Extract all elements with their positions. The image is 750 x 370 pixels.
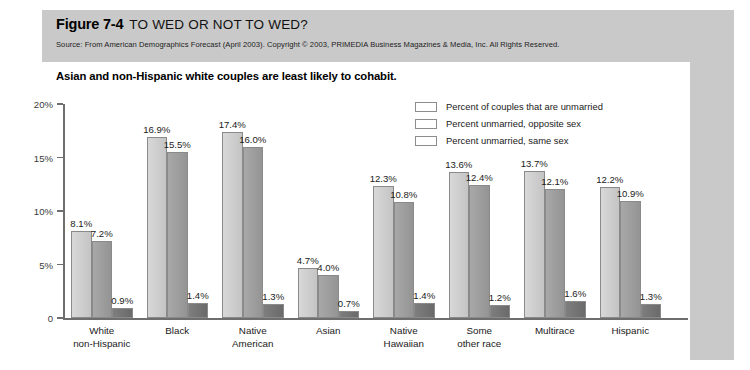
plot-area: 05%10%15%20% 8.1%7.2%0.9%16.9%15.5%1.4%1… [0, 0, 750, 370]
x-axis-line [63, 318, 688, 320]
bar-value-label: 13.7% [513, 158, 555, 169]
y-axis-tick-label: 0 [3, 313, 53, 324]
bar-value-label: 1.3% [630, 291, 672, 302]
bar [112, 308, 133, 318]
y-axis-tick-label: 10% [3, 206, 53, 217]
bar-value-label: 0.7% [328, 298, 370, 309]
bar-value-label: 4.0% [307, 262, 349, 273]
y-axis-tick-label: 20% [3, 99, 53, 110]
y-axis-tick [57, 264, 63, 265]
bar-value-label: 0.9% [101, 295, 143, 306]
bar [641, 304, 662, 318]
bar [490, 305, 511, 318]
bar [298, 268, 319, 318]
category-label-line: non-Hispanic [54, 338, 150, 351]
bar [449, 172, 470, 318]
bar-value-label: 10.9% [609, 188, 651, 199]
bar-value-label: 16.9% [136, 124, 178, 135]
bar [71, 231, 92, 318]
y-axis-tick-label: 5% [3, 259, 53, 270]
y-axis-tick [57, 317, 63, 318]
bar [524, 171, 545, 318]
bar-value-label: 12.1% [534, 176, 576, 187]
bar [565, 301, 586, 318]
figure-root: Figure 7-4 TO WED OR NOT TO WED? Source:… [0, 0, 750, 370]
category-label-line: Hispanic [582, 325, 678, 338]
bar [373, 186, 394, 318]
bar-value-label: 1.2% [479, 292, 521, 303]
y-axis-tick [57, 210, 63, 211]
bar-value-label: 1.4% [177, 290, 219, 301]
bar [339, 311, 360, 318]
bar-value-label: 7.2% [81, 228, 123, 239]
y-axis-ticks: 05%10%15%20% [0, 0, 53, 370]
bar [92, 241, 113, 318]
bar-value-label: 12.3% [362, 173, 404, 184]
bar [600, 187, 621, 318]
bar-value-label: 12.2% [589, 174, 631, 185]
category-label-line: other race [431, 338, 527, 351]
category-label: Hispanic [582, 325, 678, 338]
bar-value-label: 17.4% [211, 119, 253, 130]
bar [414, 303, 435, 318]
bar-value-label: 16.0% [232, 134, 274, 145]
bar [222, 132, 243, 318]
bar [263, 304, 284, 318]
y-axis-tick [57, 157, 63, 158]
bar [188, 303, 209, 318]
y-axis-line [63, 104, 65, 319]
bar-value-label: 1.4% [403, 290, 445, 301]
bar-value-label: 13.6% [438, 159, 480, 170]
bar-value-label: 1.3% [252, 291, 294, 302]
category-label-line: American [205, 338, 301, 351]
bar [147, 137, 168, 318]
bar-value-label: 10.8% [383, 189, 425, 200]
y-axis-tick [57, 103, 63, 104]
y-axis-tick-label: 15% [3, 152, 53, 163]
bar-value-label: 15.5% [156, 139, 198, 150]
bar-value-label: 12.4% [458, 172, 500, 183]
bar-value-label: 1.6% [554, 288, 596, 299]
